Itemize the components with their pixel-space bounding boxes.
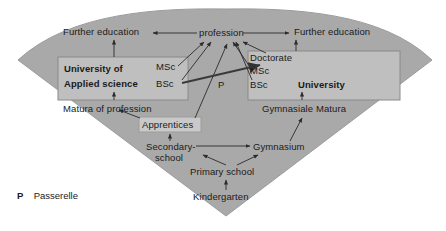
label-university-of-applied-science-line1: University of bbox=[64, 63, 123, 74]
legend: P Passerelle bbox=[17, 190, 78, 201]
label-university-of-applied-science-line2: Applied science bbox=[64, 78, 138, 89]
label-secondary-school-line2: school bbox=[155, 152, 183, 163]
label-uni-msc: MSc bbox=[250, 65, 269, 76]
label-passerelle-marker: P bbox=[218, 79, 224, 90]
label-further-education-left: Further education bbox=[63, 26, 139, 37]
label-further-education-right: Further education bbox=[294, 26, 370, 37]
label-apprentices: Apprentices bbox=[142, 119, 193, 130]
label-kindergarten: Kindergarten bbox=[193, 191, 249, 202]
label-university: University bbox=[298, 79, 345, 90]
legend-symbol: P bbox=[17, 190, 23, 201]
label-gymnasiale-matura: Gymnasiale Matura bbox=[262, 103, 346, 114]
label-secondary-school-line1: Secondary- bbox=[146, 141, 196, 152]
legend-text: Passerelle bbox=[34, 190, 78, 201]
label-uas-msc: MSc bbox=[156, 61, 175, 72]
label-matura-of-profession: Matura of profession bbox=[63, 103, 152, 114]
label-primary-school: Primary school bbox=[190, 166, 254, 177]
label-uni-bsc: BSc bbox=[250, 79, 268, 90]
label-gymnasium: Gymnasium bbox=[253, 141, 305, 152]
diagram-canvas: Further education profession Further edu… bbox=[0, 0, 446, 231]
label-profession: profession bbox=[199, 27, 244, 38]
label-uas-bsc: BSc bbox=[156, 78, 174, 89]
label-uni-doctorate: Doctorate bbox=[250, 52, 292, 63]
